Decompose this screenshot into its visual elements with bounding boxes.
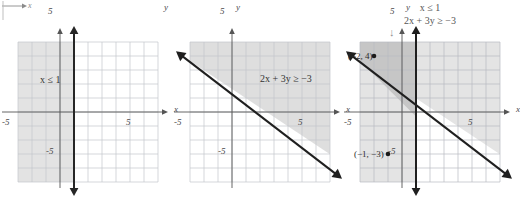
- test-point-label-a: (−2, 4): [348, 52, 373, 61]
- x-tick-negative-3: -5: [344, 118, 352, 127]
- y-tick-positive-2: 5: [220, 7, 225, 16]
- y-tick-negative-3: -5: [388, 147, 396, 156]
- x-tick-negative-1: -5: [2, 118, 10, 127]
- plot-area-2: y x 5 -5 -5 5 2x + 3y ≥ −3: [190, 42, 330, 182]
- graph-panel-system-solution: x ≤ 1 2x + 3y ≥ −3 ↓: [342, 0, 515, 210]
- graph-panel-2x-3y-ge-neg3: y x 5 -5 -5 5 2x + 3y ≥ −3: [172, 0, 345, 210]
- graph-panel-x-le-1: y x 5 -5 -5 5 x ≤ 1: [0, 0, 173, 210]
- x-tick-negative-2: -5: [174, 118, 182, 127]
- plot-area-1: y x 5 -5 -5 5 x ≤ 1: [18, 42, 158, 182]
- test-point-label-b: (−1, −3): [354, 150, 384, 159]
- y-tick-positive-1: 5: [48, 7, 53, 16]
- plot-area-3: y x 5 -5 -5 5 (−2, 4) (−1, −3): [360, 42, 500, 182]
- x-axis-label-3: x: [516, 105, 520, 114]
- y-tick-negative-2: -5: [218, 147, 226, 156]
- x-tick-positive-3: 5: [468, 118, 473, 127]
- x-tick-positive-2: 5: [298, 118, 303, 127]
- grid-and-axes-3: [342, 0, 515, 210]
- grid-and-axes-2: [172, 0, 345, 210]
- x-tick-positive-1: 5: [126, 118, 131, 127]
- y-axis-label-3: y: [406, 3, 410, 12]
- y-axis-label-1: y: [164, 3, 168, 12]
- y-tick-negative-1: -5: [46, 147, 54, 156]
- inequality-label-2: 2x + 3y ≥ −3: [260, 73, 312, 85]
- y-tick-positive-3: 5: [390, 7, 395, 16]
- y-axis-label-2: y: [236, 3, 240, 12]
- inequality-label-1: x ≤ 1: [40, 74, 61, 86]
- grid-and-axes-1: [0, 0, 173, 210]
